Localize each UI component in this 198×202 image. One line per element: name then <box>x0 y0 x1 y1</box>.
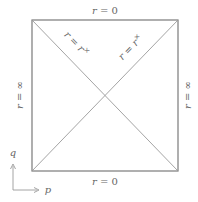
label-top-singularity: r = 0 <box>92 5 118 16</box>
axis-p-label: p <box>45 184 52 195</box>
label-diagonal-left: r = r× <box>62 28 92 58</box>
penrose-diagram: r = 0 r = 0 r = ∞ r = ∞ r = r× r = r× q … <box>0 0 198 202</box>
label-right-infinity: r = ∞ <box>182 81 193 109</box>
label-val: ∞ <box>182 81 193 89</box>
label-eq: = <box>14 89 25 104</box>
label-diagonal-right: r = r× <box>115 32 145 62</box>
axis-q-label: q <box>10 147 16 158</box>
label-left-infinity: r = ∞ <box>14 81 25 109</box>
label-eq: = <box>97 5 112 16</box>
label-eq: = <box>182 89 193 104</box>
label-val: ∞ <box>14 81 25 89</box>
label-val: 0 <box>112 5 118 16</box>
label-bottom-singularity: r = 0 <box>92 176 118 187</box>
label-eq: = <box>97 176 112 187</box>
label-val: 0 <box>112 176 118 187</box>
